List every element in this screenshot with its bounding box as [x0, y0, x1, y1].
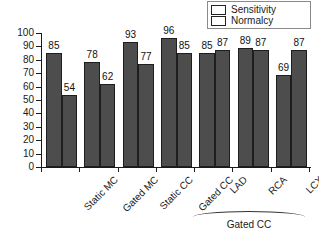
- bar-value-label: 77: [134, 52, 158, 62]
- y-tick-label: 40: [23, 108, 34, 118]
- bar: [276, 75, 292, 167]
- bar-value-label: 62: [96, 72, 120, 82]
- x-tick-mark: [309, 167, 310, 172]
- x-tick-mark: [271, 167, 272, 172]
- x-axis-label: Static CC: [157, 174, 195, 212]
- bar: [177, 53, 193, 167]
- legend-swatch-normalcy: [211, 16, 226, 26]
- bar: [238, 48, 254, 167]
- plot-area: 01020304050607080901008554Static MC7862G…: [41, 33, 309, 167]
- y-tick-mark: [36, 100, 41, 101]
- y-tick-mark: [36, 140, 41, 141]
- y-tick-label: 80: [23, 55, 34, 65]
- y-tick-mark: [36, 46, 41, 47]
- y-tick-mark: [36, 113, 41, 114]
- group-bracket-label: Gated CC: [193, 219, 305, 231]
- legend-label-sensitivity: Sensitivity: [231, 4, 276, 15]
- x-axis-label: LCX: [304, 174, 319, 196]
- x-tick-mark: [156, 167, 157, 172]
- x-tick-mark: [194, 167, 195, 172]
- y-tick-label: 70: [23, 68, 34, 78]
- bar-value-label: 78: [80, 50, 104, 60]
- bar: [161, 38, 177, 167]
- x-tick-mark: [41, 167, 42, 172]
- bar-value-label: 87: [211, 38, 235, 48]
- bar-value-label: 87: [287, 38, 311, 48]
- y-tick-mark: [36, 73, 41, 74]
- bar-value-label: 87: [249, 38, 273, 48]
- y-tick-mark: [36, 33, 41, 34]
- x-tick-mark: [118, 167, 119, 172]
- chart-legend: Sensitivity Normalcy: [207, 1, 311, 29]
- y-tick-label: 0: [28, 162, 34, 172]
- bar-value-label: 96: [157, 26, 181, 36]
- group-bracket: [193, 211, 305, 217]
- y-tick-mark: [36, 87, 41, 88]
- x-axis-label: Gated CC: [196, 174, 235, 213]
- bar-value-label: 85: [42, 41, 66, 51]
- bar: [100, 84, 116, 167]
- bar-value-label: 93: [119, 30, 143, 40]
- bar: [199, 53, 215, 167]
- y-tick-label: 10: [23, 149, 34, 159]
- legend-label-normalcy: Normalcy: [231, 15, 273, 26]
- y-tick-mark: [36, 60, 41, 61]
- y-tick-label: 50: [23, 95, 34, 105]
- bar: [138, 64, 154, 167]
- bar: [46, 53, 62, 167]
- bar-value-label: 54: [58, 83, 82, 93]
- y-tick-mark: [36, 154, 41, 155]
- y-tick-label: 30: [23, 122, 34, 132]
- x-axis-label: Gated MC: [120, 174, 160, 214]
- legend-item-normalcy: Normalcy: [211, 15, 306, 26]
- bar: [253, 50, 269, 167]
- y-tick-label: 90: [23, 41, 34, 51]
- x-axis-label: Static MC: [81, 174, 119, 212]
- legend-item-sensitivity: Sensitivity: [211, 4, 306, 15]
- bar-value-label: 85: [173, 41, 197, 51]
- y-tick-mark: [36, 127, 41, 128]
- y-tick-label: 100: [17, 28, 34, 38]
- x-tick-mark: [79, 167, 80, 172]
- bar: [291, 50, 307, 167]
- group-bracket-line: [193, 211, 305, 217]
- y-tick-label: 20: [23, 135, 34, 145]
- x-tick-mark: [232, 167, 233, 172]
- legend-swatch-sensitivity: [211, 5, 226, 15]
- bar-chart: Sensitivity Normalcy Percent 01020304050…: [0, 0, 319, 236]
- bar: [62, 95, 78, 167]
- x-axis-label: RCA: [266, 174, 289, 197]
- y-tick-label: 60: [23, 82, 34, 92]
- bar: [215, 50, 231, 167]
